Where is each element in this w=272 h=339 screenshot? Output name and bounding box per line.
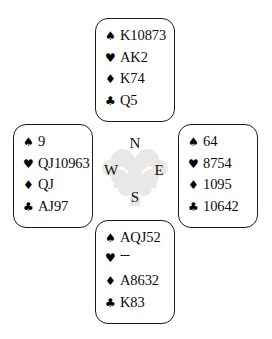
south-heart-cards: --- <box>120 249 129 261</box>
diamond-icon: ♦ <box>105 275 120 287</box>
spade-icon: ♠ <box>188 136 203 148</box>
north-heart-cards: AK2 <box>120 50 148 65</box>
south-diamond-cards: A8632 <box>120 273 159 288</box>
west-club-row: ♣ AJ97 <box>14 199 92 221</box>
compass-label-north: N <box>99 136 171 151</box>
hand-east: ♠ 64 ♥ 8754 ♦ 1095 ♣ 10642 <box>178 124 258 228</box>
club-icon: ♣ <box>105 297 120 309</box>
club-icon: ♣ <box>188 201 203 213</box>
compass-label-west: W <box>101 163 121 178</box>
west-diamond-row: ♦ QJ <box>14 177 92 199</box>
compass-rose: N W E S <box>99 128 171 212</box>
hand-west: ♠ 9 ♥ QJ10963 ♦ QJ ♣ AJ97 <box>13 124 93 228</box>
east-spade-cards: 64 <box>203 134 217 149</box>
east-heart-cards: 8754 <box>203 156 232 171</box>
south-heart-row: ♥ --- <box>96 252 174 274</box>
north-spade-cards: K10873 <box>120 28 166 43</box>
diamond-icon: ♦ <box>188 179 203 191</box>
diamond-icon: ♦ <box>23 179 38 191</box>
north-heart-row: ♥ AK2 <box>96 50 174 72</box>
heart-icon: ♥ <box>188 158 203 170</box>
diamond-icon: ♦ <box>105 73 120 85</box>
hand-south: ♠ AQJ52 ♥ --- ♦ A8632 ♣ K83 <box>95 220 175 324</box>
south-diamond-row: ♦ A8632 <box>96 273 174 295</box>
south-club-cards: K83 <box>120 295 145 310</box>
compass-label-south: S <box>99 190 171 205</box>
east-spade-row: ♠ 64 <box>179 134 257 156</box>
west-spade-cards: 9 <box>38 134 45 149</box>
north-diamond-row: ♦ K74 <box>96 71 174 93</box>
west-club-cards: AJ97 <box>38 199 68 214</box>
east-heart-row: ♥ 8754 <box>179 156 257 178</box>
west-diamond-cards: QJ <box>38 177 54 192</box>
bridge-deal-diagram: ♠ K10873 ♥ AK2 ♦ K74 ♣ Q5 ♠ 9 ♥ QJ10963 … <box>0 0 272 339</box>
south-spade-cards: AQJ52 <box>120 230 161 245</box>
club-icon: ♣ <box>105 95 120 107</box>
spade-icon: ♠ <box>105 30 120 42</box>
north-club-cards: Q5 <box>120 93 138 108</box>
west-heart-cards: QJ10963 <box>38 156 90 171</box>
south-spade-row: ♠ AQJ52 <box>96 230 174 252</box>
hand-north: ♠ K10873 ♥ AK2 ♦ K74 ♣ Q5 <box>95 18 175 122</box>
south-club-row: ♣ K83 <box>96 295 174 317</box>
compass-label-east: E <box>149 163 169 178</box>
west-spade-row: ♠ 9 <box>14 134 92 156</box>
east-club-row: ♣ 10642 <box>179 199 257 221</box>
north-club-row: ♣ Q5 <box>96 93 174 115</box>
west-heart-row: ♥ QJ10963 <box>14 156 92 178</box>
east-diamond-row: ♦ 1095 <box>179 177 257 199</box>
east-diamond-cards: 1095 <box>203 177 232 192</box>
heart-icon: ♥ <box>105 52 120 64</box>
heart-icon: ♥ <box>23 158 38 170</box>
east-club-cards: 10642 <box>203 199 239 214</box>
north-diamond-cards: K74 <box>120 71 145 86</box>
spade-icon: ♠ <box>23 136 38 148</box>
north-spade-row: ♠ K10873 <box>96 28 174 50</box>
spade-icon: ♠ <box>105 232 120 244</box>
club-icon: ♣ <box>23 201 38 213</box>
heart-icon: ♥ <box>105 252 120 264</box>
